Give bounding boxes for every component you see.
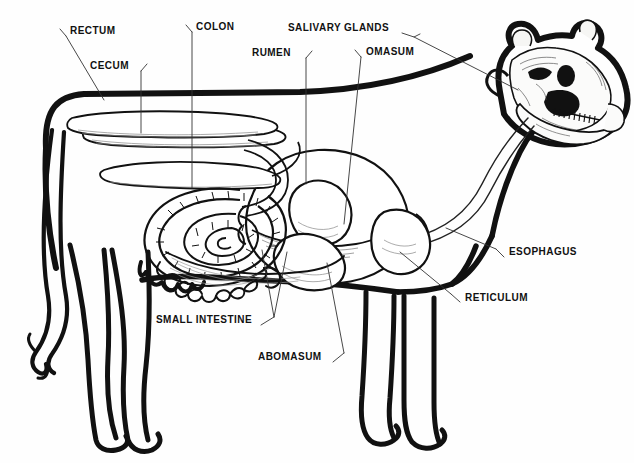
label-omasum: OMASUM — [366, 47, 414, 57]
label-cecum: CECUM — [90, 61, 129, 71]
diagram-canvas: RECTUM CECUM COLON RUMEN SALIVARY GLANDS… — [0, 0, 634, 463]
label-abomasum: ABOMASUM — [258, 352, 322, 362]
label-reticulum: RETICULUM — [465, 293, 528, 303]
label-colon: COLON — [196, 22, 234, 32]
tail — [28, 130, 67, 378]
label-salivary-glands: SALIVARY GLANDS — [288, 23, 389, 33]
label-esophagus: ESOPHAGUS — [509, 247, 577, 257]
reticulum — [371, 210, 430, 274]
rectum — [67, 111, 277, 137]
skull — [487, 20, 628, 144]
label-small-intestine: SMALL INTESTINE — [156, 315, 252, 325]
fore-legs — [361, 292, 445, 448]
label-rumen: RUMEN — [252, 48, 291, 58]
label-rectum: RECTUM — [70, 26, 115, 36]
